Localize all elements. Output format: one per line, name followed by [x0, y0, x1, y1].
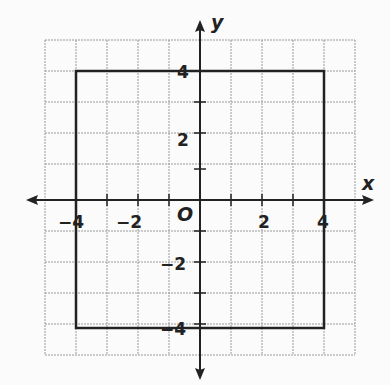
- y-tick-label-pos2: 2: [177, 130, 189, 150]
- coordinate-plane: x y O −4 −2 2 4 4 2 −2 −4: [0, 0, 390, 385]
- x-tick-label-neg2: −2: [116, 212, 142, 232]
- x-tick-label-neg4: −4: [58, 212, 84, 232]
- y-axis-label: y: [211, 11, 225, 33]
- origin-label: O: [177, 203, 193, 225]
- x-axis-label: x: [361, 172, 375, 194]
- y-tick-label-pos4: 4: [177, 62, 189, 82]
- x-tick-label-pos2: 2: [258, 212, 270, 232]
- x-tick-label-pos4: 4: [317, 212, 329, 232]
- y-tick-label-neg4: −4: [160, 319, 186, 339]
- y-tick-label-neg2: −2: [160, 254, 186, 274]
